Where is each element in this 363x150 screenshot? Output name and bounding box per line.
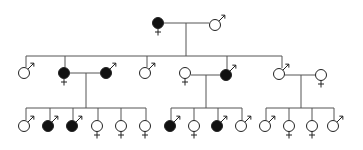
individual-II-5-female-unaffected	[180, 68, 191, 86]
individual-III-3-male-affected	[67, 116, 82, 131]
female-cross-icon	[286, 132, 292, 139]
male-arrow-icon	[110, 63, 116, 69]
male-arrow-icon	[337, 116, 343, 122]
male-arrow-icon	[230, 65, 236, 71]
male-arrow-icon	[219, 15, 225, 21]
filled-circle-icon	[59, 68, 70, 79]
filled-circle-icon	[153, 18, 164, 29]
individual-III-12-female-unaffected	[284, 121, 295, 139]
open-circle-icon	[180, 68, 191, 79]
female-cross-icon	[191, 132, 197, 139]
individual-III-4-female-unaffected	[92, 121, 103, 139]
female-cross-icon	[318, 81, 324, 88]
female-cross-icon	[61, 79, 67, 86]
open-circle-icon	[316, 70, 327, 81]
male-arrow-icon	[28, 116, 34, 122]
individual-I-2-male-unaffected	[210, 15, 225, 30]
individual-III-14-male-unaffected	[328, 116, 343, 131]
female-cross-icon	[182, 79, 188, 86]
individual-III-13-female-unaffected	[307, 121, 318, 139]
female-cross-icon	[94, 132, 100, 139]
male-arrow-icon	[52, 116, 58, 122]
female-cross-icon	[309, 132, 315, 139]
individuals	[19, 15, 343, 138]
male-arrow-icon	[28, 63, 34, 69]
individual-III-6-female-unaffected	[140, 121, 151, 139]
male-arrow-icon	[149, 63, 155, 69]
individual-II-2-female-affected	[59, 68, 70, 86]
open-circle-icon	[92, 121, 103, 132]
male-arrow-icon	[269, 116, 275, 122]
individual-III-11-male-unaffected	[260, 116, 275, 131]
individual-II-6-male-affected	[221, 65, 236, 80]
individual-II-7-male-unaffected	[274, 64, 289, 79]
open-circle-icon	[116, 121, 127, 132]
male-arrow-icon	[174, 116, 180, 122]
open-circle-icon	[307, 121, 318, 132]
individual-III-8-female-unaffected	[189, 121, 200, 139]
open-circle-icon	[189, 121, 200, 132]
open-circle-icon	[284, 121, 295, 132]
individual-I-1-female-affected	[153, 18, 164, 36]
individual-II-3-male-affected	[101, 63, 116, 78]
individual-III-9-male-affected	[212, 116, 227, 131]
individual-II-8-female-unaffected	[316, 70, 327, 88]
female-cross-icon	[155, 29, 161, 36]
male-arrow-icon	[283, 64, 289, 70]
individual-III-7-male-affected	[165, 116, 180, 131]
open-circle-icon	[140, 121, 151, 132]
male-arrow-icon	[221, 116, 227, 122]
female-cross-icon	[142, 132, 148, 139]
male-arrow-icon	[76, 116, 82, 122]
female-cross-icon	[118, 132, 124, 139]
pedigree-chart	[0, 0, 363, 150]
individual-III-10-male-unaffected	[236, 116, 251, 131]
individual-III-5-female-unaffected	[116, 121, 127, 139]
male-arrow-icon	[245, 116, 251, 122]
